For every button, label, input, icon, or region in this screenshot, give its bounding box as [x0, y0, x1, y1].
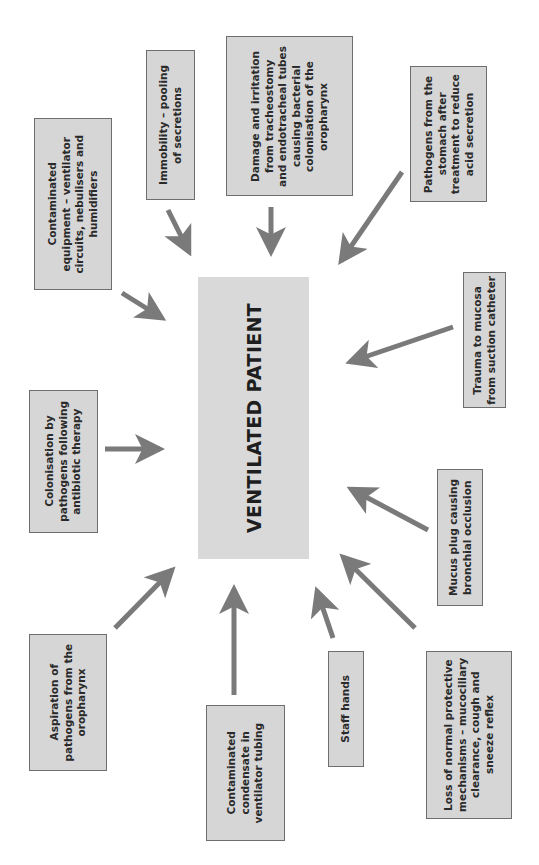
node-pathogens-stomach: Pathogens from the stomach after treatme…: [410, 66, 487, 202]
arrow-immobility: [168, 210, 189, 252]
node-label: Immobility – pooling of secretions: [157, 65, 184, 185]
node-immobility: Immobility – pooling of secretions: [146, 50, 195, 200]
arrow-mucus-plug: [351, 489, 428, 530]
node-aspiration: Aspiration of pathogens from the orophar…: [29, 634, 107, 771]
node-label: Contaminated equipment – ventilator circ…: [46, 135, 100, 274]
arrow-contaminated-equipment: [122, 293, 162, 318]
node-loss-protective: Loss of normal protective mechanisms – m…: [426, 651, 512, 819]
node-colonisation-antibiotic: Colonisation by pathogens following anti…: [29, 390, 98, 533]
node-label: Contaminated condensate in ventilator tu…: [225, 723, 266, 823]
node-label: Trauma to mucosa from suction catheter: [471, 276, 498, 405]
arrow-trauma-mucosa: [350, 327, 453, 362]
node-label: Aspiration of pathogens from the orophar…: [48, 644, 89, 762]
arrow-loss-protective: [343, 557, 415, 628]
node-label: Mucus plug causing bronchial occlusion: [447, 479, 474, 596]
center-node-ventilated-patient: VENTILATED PATIENT: [198, 277, 309, 559]
node-label: Pathogens from the stomach after treatme…: [422, 74, 476, 194]
node-label: Damage and irritation from tracheostomy …: [249, 46, 330, 187]
node-label: Colonisation by pathogens following anti…: [43, 401, 84, 522]
node-label: Loss of normal protective mechanisms – m…: [442, 658, 496, 812]
node-contaminated-equipment: Contaminated equipment – ventilator circ…: [34, 118, 112, 290]
arrow-aspiration: [115, 570, 172, 628]
arrow-staff-hands: [317, 591, 333, 638]
node-label: Staff hands: [339, 675, 353, 743]
center-node-label: VENTILATED PATIENT: [243, 303, 265, 533]
node-contaminated-condensate: Contaminated condensate in ventilator tu…: [206, 705, 285, 841]
node-mucus-plug: Mucus plug causing bronchial occlusion: [437, 469, 483, 606]
node-trauma-mucosa: Trauma to mucosa from suction catheter: [463, 272, 506, 408]
node-damage-irritation: Damage and irritation from tracheostomy …: [226, 36, 353, 196]
node-staff-hands: Staff hands: [328, 651, 364, 767]
